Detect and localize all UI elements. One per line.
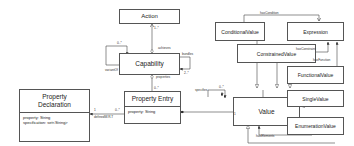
label-has-elements: hasElements bbox=[256, 135, 274, 138]
class-capability[interactable]: Capability bbox=[119, 53, 180, 75]
label-has-function: hasFunction bbox=[313, 59, 330, 62]
class-enumeration-value[interactable]: EnumerationValue bbox=[287, 117, 344, 135]
class-property-declaration[interactable]: Property Declaration property: String sp… bbox=[19, 89, 90, 142]
label-bundles: bundles bbox=[182, 53, 193, 56]
attribute: property: String bbox=[128, 109, 177, 114]
multiplicity-achieves: 1..* bbox=[154, 27, 159, 30]
class-functional-value[interactable]: FunctionalValue bbox=[287, 66, 344, 84]
class-name: Property Entry bbox=[125, 92, 180, 106]
class-name: Capability bbox=[135, 60, 164, 68]
class-name: EnumerationValue bbox=[295, 123, 336, 129]
label-specifies: specifies bbox=[195, 89, 207, 92]
multiplicity-bundles: 2..* bbox=[184, 72, 189, 75]
multiplicity-defined-wrt-source: 1 bbox=[94, 109, 96, 112]
label-has-condition: hasCondition bbox=[260, 12, 279, 15]
class-attributes: property: String specification: set<Stri… bbox=[20, 112, 89, 128]
class-name-line2: Declaration bbox=[20, 101, 89, 109]
class-name: Action bbox=[141, 13, 158, 20]
class-conditional-value[interactable]: ConditionalValue bbox=[215, 22, 265, 41]
label-achieves: achieves bbox=[158, 47, 171, 50]
class-name: ConstrainedValue bbox=[257, 51, 296, 57]
class-name-line1: Property bbox=[20, 93, 89, 101]
multiplicity-specifies-end: 1 bbox=[234, 113, 236, 116]
label-variant-of: variantOf bbox=[105, 69, 118, 72]
class-name-block: Property Declaration bbox=[20, 90, 89, 112]
class-expression[interactable]: Expression bbox=[287, 22, 344, 41]
class-name: ConditionalValue bbox=[221, 29, 258, 35]
class-property-entry[interactable]: Property Entry property: String bbox=[124, 91, 181, 124]
multiplicity-defined-wrt-target: 0..* bbox=[115, 109, 120, 112]
class-name: SingleValue bbox=[302, 96, 328, 102]
label-defined-wrt: definedW.R.T bbox=[94, 116, 113, 119]
class-attributes: property: String bbox=[125, 106, 180, 116]
multiplicity-properties: 0..* bbox=[154, 87, 159, 90]
class-action[interactable]: Action bbox=[119, 9, 180, 24]
class-single-value[interactable]: SingleValue bbox=[287, 90, 344, 107]
class-name: FunctionalValue bbox=[298, 72, 334, 78]
multiplicity-variant-of: 0..* bbox=[117, 42, 122, 45]
class-name: Expression bbox=[303, 29, 328, 35]
attribute: specification: set<String> bbox=[23, 120, 86, 125]
label-has-constraint: hasConstraint bbox=[296, 48, 316, 51]
label-properties: properties bbox=[156, 76, 170, 79]
multiplicity-specifies: 0..* bbox=[219, 86, 224, 89]
class-name: Value bbox=[258, 108, 274, 116]
